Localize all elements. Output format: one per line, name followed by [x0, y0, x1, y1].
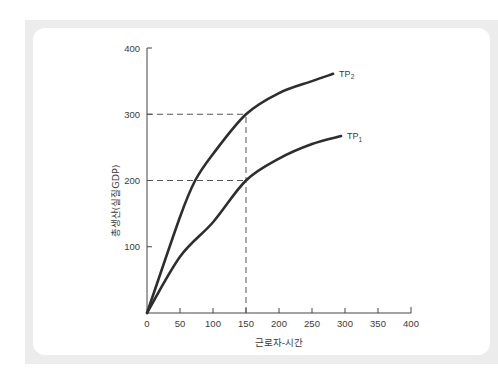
dashed-guides — [147, 114, 246, 313]
x-tick-label: 100 — [205, 318, 221, 329]
y-tick-label: 100 — [124, 241, 140, 252]
x-axis-label: 근로자-시간 — [255, 337, 303, 348]
y-tick-label: 200 — [124, 175, 140, 186]
production-chart: 050100150200250300350400100200300400 TP1… — [0, 0, 498, 383]
x-tick-label: 300 — [337, 318, 353, 329]
axes: 050100150200250300350400100200300400 — [124, 43, 419, 330]
y-tick-label: 400 — [124, 43, 140, 54]
series-lines: TP1TP2 — [147, 69, 363, 313]
series-label-tp2: TP2 — [339, 69, 355, 81]
x-tick-label: 400 — [403, 318, 419, 329]
x-tick-label: 250 — [304, 318, 320, 329]
x-tick-label: 200 — [271, 318, 287, 329]
series-label-tp1: TP1 — [347, 131, 363, 143]
x-tick-label: 50 — [175, 318, 186, 329]
x-tick-label: 150 — [238, 318, 254, 329]
y-axis-label: 총생산(실질GDP) — [110, 165, 121, 238]
curve-tp2 — [147, 74, 333, 313]
x-tick-label: 0 — [144, 318, 149, 329]
x-tick-label: 350 — [370, 318, 386, 329]
y-tick-label: 300 — [124, 109, 140, 120]
